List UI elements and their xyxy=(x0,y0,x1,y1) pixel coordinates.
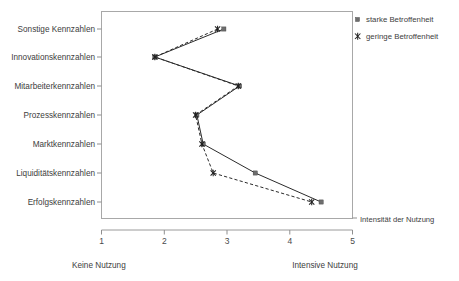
y-axis-label-liquiditaet: Liquiditätskennzahlen xyxy=(16,169,95,178)
series-geringe xyxy=(152,26,314,205)
data-point-marker-square xyxy=(253,171,257,175)
series-starke xyxy=(153,27,323,204)
x-axis xyxy=(102,218,358,235)
x-tick-2: 2 xyxy=(162,236,167,246)
x-tick-5: 5 xyxy=(350,236,355,246)
legend-label-geringe: geringe Betroffenheit xyxy=(366,32,439,41)
legend-label-starke: starke Betroffenheit xyxy=(366,15,434,24)
y-axis-label-prozess: Prozesskennzahlen xyxy=(24,111,96,120)
x-tick-4: 4 xyxy=(287,236,292,246)
series-layer xyxy=(152,26,323,205)
chart-legend: starke Betroffenheit geringe Betroffenhe… xyxy=(355,15,439,41)
data-point-marker-x xyxy=(211,170,216,176)
series-line xyxy=(155,29,312,202)
legend-marker-x-icon xyxy=(355,33,360,40)
y-axis-label-sonstige: Sonstige Kennzahlen xyxy=(18,25,96,34)
data-point-marker-x xyxy=(215,26,220,32)
scale-anchor-low: Keine Nutzung xyxy=(72,261,126,270)
x-tick-1: 1 xyxy=(99,236,104,246)
y-axis-labels: Sonstige Kennzahlen Innovationskennzahle… xyxy=(11,25,95,207)
data-point-marker-x xyxy=(309,199,314,205)
chart-figure: Sonstige Kennzahlen Innovationskennzahle… xyxy=(0,0,459,281)
scale-anchor-high: Intensive Nutzung xyxy=(292,261,358,270)
y-axis-label-markt: Marktkennzahlen xyxy=(33,140,96,149)
series-line xyxy=(155,29,321,202)
data-point-marker-square xyxy=(319,200,323,204)
y-axis-ticks xyxy=(97,29,102,202)
plot-frame xyxy=(102,12,353,219)
x-axis-tick-labels: 1 2 3 4 5 xyxy=(99,236,355,246)
x-tick-3: 3 xyxy=(225,236,230,246)
y-axis-label-erfolg: Erfolgskennzahlen xyxy=(28,198,96,207)
legend-marker-square-icon xyxy=(356,18,360,22)
data-point-marker-square xyxy=(222,27,226,31)
chart-svg: Sonstige Kennzahlen Innovationskennzahle… xyxy=(0,0,459,281)
x-axis-title: Intensität der Nutzung xyxy=(360,215,434,224)
y-axis-label-innovation: Innovationskennzahlen xyxy=(11,53,95,62)
y-axis-label-mitarbeiter: Mitarbeiterkennzahlen xyxy=(14,82,95,91)
